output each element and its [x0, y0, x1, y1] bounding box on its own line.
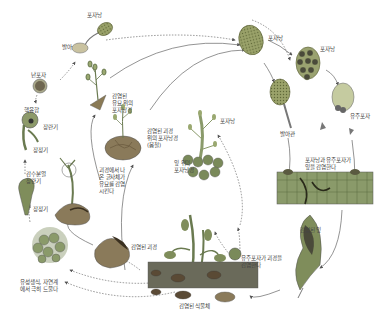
oospore — [33, 79, 47, 93]
label-antheridium-enters: 감수분열 장란기 — [26, 171, 46, 185]
sporangium-large — [236, 22, 267, 57]
sporangium-top-left — [72, 20, 115, 53]
disease-cycle-diagram: 포자낭 발아 난포자 핵융합 장란기 장정기 감수분열 장란기 장정기 유성생식… — [0, 0, 387, 329]
label-infected-tuber: 감염된 괴경 — [131, 244, 157, 251]
label-antheridium-1: 장란기 — [43, 124, 58, 131]
infected-tuber — [95, 236, 130, 268]
label-fertilization: 핵융합 — [24, 107, 39, 114]
label-germination-top: 발아 — [62, 44, 72, 51]
sporangium-with-zoospores — [296, 47, 320, 80]
arrow-leaf-to-soil — [250, 290, 280, 297]
label-infected-plant: 감염된 식물체 — [179, 303, 210, 310]
oospore-cluster — [32, 227, 68, 263]
label-oospore: 난포자 — [31, 72, 46, 79]
label-germination-right: 발아관 — [280, 131, 295, 138]
infected-seedling — [86, 61, 106, 110]
label-sporangium-right-2: 포자낭 — [320, 46, 335, 53]
leaf-cross-section — [277, 169, 373, 204]
label-leaf-infection: 포자낭과 유주포자가 잎을 감염한다 — [305, 157, 351, 171]
label-zoospore-tuber-infection: 유주포자가 괴경을 감염한다 — [241, 255, 282, 269]
zoospore-release — [320, 83, 354, 135]
sporangium-germinating — [270, 79, 291, 128]
zoospore-cluster — [229, 248, 241, 260]
label-sporangium-right-1: 포자낭 — [268, 35, 283, 42]
label-zoospore: 유주포자 — [350, 113, 370, 120]
label-oogonium-1: 장정기 — [33, 147, 48, 154]
sprouting-tuber — [55, 158, 90, 225]
oogonium-antheridium — [22, 112, 38, 150]
label-mycelium-from-tuber: 괴경에서 나 온 균사체가 유묘를 감염 시킨다 — [99, 167, 125, 195]
label-sporangiophores-leaf: 잎 위의 포자낭경 — [174, 160, 194, 174]
label-sexual-reproduction: 유성생식, 자연계 에서 극히 드물다 — [20, 279, 58, 293]
label-infected-leaf: 감염된 잎 — [300, 227, 321, 234]
label-oogonium-2: 장정기 — [33, 206, 48, 213]
label-sporangiophores-tuber: 감염된 괴경 위의 포자낭경 (봄철) — [147, 128, 178, 149]
label-sporangiophores-seedling: 감염된 유묘 위의 포자낭경 — [112, 93, 133, 114]
label-sporangium-top-left: 포자낭 — [87, 12, 102, 19]
arrow-sporangium-spread — [106, 35, 235, 40]
label-sporangium-stem: 포자낭 — [220, 118, 235, 125]
